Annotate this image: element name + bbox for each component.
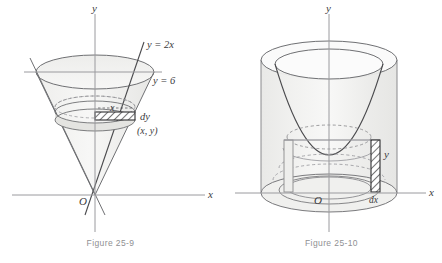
- shell-element-hatched-rect: [371, 140, 380, 192]
- y-axis-label: y: [325, 2, 331, 14]
- figure-panel-paraboloid: y x O y dx Figure 25-10: [221, 0, 442, 263]
- figure-caption-left: Figure 25-9: [0, 238, 221, 248]
- cone-disk-diagram: y x O y = 2x y = 6 x dy (x, y): [0, 0, 221, 240]
- origin-label: O: [314, 194, 322, 206]
- figure-pair-page: y x O y = 2x y = 6 x dy (x, y) Figure 25…: [0, 0, 442, 263]
- label-point-xy: (x, y): [137, 125, 158, 137]
- label-line-y-equals-2x: y = 2x: [146, 39, 174, 50]
- figure-caption-right: Figure 25-10: [221, 238, 442, 248]
- label-radius-x: x: [109, 102, 115, 113]
- origin-label: O: [79, 195, 87, 207]
- label-thickness-dy: dy: [140, 111, 150, 122]
- shell-back-wall: [284, 140, 293, 192]
- paraboloid-shell-diagram: y x O y dx: [221, 0, 442, 240]
- x-axis-label: x: [428, 186, 434, 198]
- label-line-y-equals-6: y = 6: [152, 75, 176, 86]
- figure-panel-cone: y x O y = 2x y = 6 x dy (x, y) Figure 25…: [0, 0, 221, 263]
- x-axis-label: x: [207, 188, 213, 200]
- label-height-y: y: [383, 148, 389, 160]
- label-thickness-dx: dx: [369, 195, 379, 205]
- y-axis-label: y: [91, 2, 97, 14]
- disk-element-hatched-rect: [95, 112, 135, 120]
